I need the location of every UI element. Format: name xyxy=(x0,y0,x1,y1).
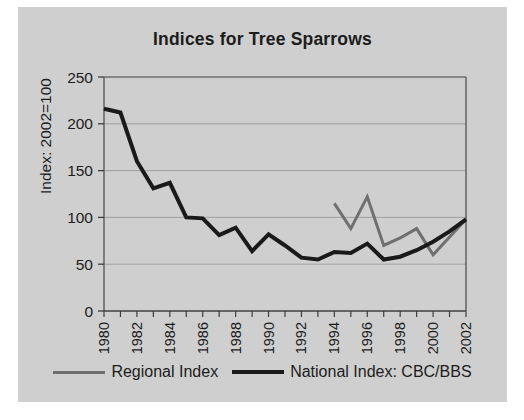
legend-label-national: National Index: CBC/BBS xyxy=(290,363,471,381)
x-tick-label: 1996 xyxy=(359,322,375,354)
series-line-regional xyxy=(334,197,466,255)
series-line-national xyxy=(104,109,466,260)
page-left-margin xyxy=(0,0,18,420)
legend-item-national: National Index: CBC/BBS xyxy=(232,363,471,381)
chart-legend: Regional Index National Index: CBC/BBS xyxy=(18,363,507,381)
x-tick-labels: 1980198219841986198819901992199419961998… xyxy=(96,322,474,354)
x-tick-label: 1984 xyxy=(162,322,178,354)
legend-line-regional-icon xyxy=(53,371,105,374)
x-tick-label: 1990 xyxy=(261,322,277,354)
x-tick-label: 1992 xyxy=(293,322,309,354)
x-tick-label: 1998 xyxy=(392,322,408,354)
data-series xyxy=(104,109,466,260)
y-tick-label: 50 xyxy=(76,256,94,273)
y-tick-label: 200 xyxy=(67,115,93,132)
legend-line-national-icon xyxy=(232,370,284,374)
x-tick-label: 1994 xyxy=(326,322,342,354)
legend-item-regional: Regional Index xyxy=(53,363,218,381)
x-tick-label: 1988 xyxy=(228,322,244,354)
x-tick-label: 1986 xyxy=(195,322,211,354)
x-axis-ticks xyxy=(104,311,466,317)
legend-label-regional: Regional Index xyxy=(111,363,218,381)
plot-area: 050100150200250 198019821984198619881990… xyxy=(18,7,507,402)
y-axis-ticks xyxy=(98,77,104,311)
x-tick-label: 2000 xyxy=(425,322,441,354)
y-tick-labels: 050100150200250 xyxy=(67,69,93,320)
x-tick-label: 1980 xyxy=(96,322,112,354)
gridlines xyxy=(104,77,466,264)
axis-frame xyxy=(104,77,466,311)
x-tick-label: 1982 xyxy=(129,322,145,354)
y-tick-label: 150 xyxy=(67,162,93,179)
y-tick-label: 100 xyxy=(67,209,93,226)
chart-figure: Indices for Tree Sparrows Index: 2002=10… xyxy=(18,7,507,402)
y-tick-label: 250 xyxy=(67,69,93,86)
y-tick-label: 0 xyxy=(84,303,93,320)
x-tick-label: 2002 xyxy=(458,322,474,354)
